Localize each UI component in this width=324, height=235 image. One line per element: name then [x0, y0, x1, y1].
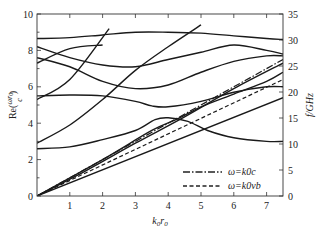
right-tick-label: 5	[288, 165, 293, 176]
y-tick-label: 4	[28, 118, 33, 129]
y-tick-label: 6	[28, 81, 33, 92]
x-tick-label: 7	[264, 200, 269, 211]
right-tick-label: 35	[288, 9, 298, 20]
legend-light-line-label: ω=k0c	[228, 166, 256, 177]
series-curve-8	[37, 55, 283, 88]
x-tick-label: 2	[100, 200, 105, 211]
y-tick-label: 10	[23, 9, 33, 20]
x-tick-label: 5	[199, 200, 204, 211]
x-tick-label: 4	[166, 200, 171, 211]
right-tick-label: 0	[288, 191, 293, 202]
x-tick-label: 6	[231, 200, 236, 211]
right-tick-label: 30	[288, 35, 298, 46]
right-tick-label: 25	[288, 61, 298, 72]
y-tick-label: 2	[28, 154, 33, 165]
dispersion-chart: 1234567 0246810 05101520253035 k0r0 Re(ω…	[0, 0, 324, 235]
y-axis-label: Re(ωr0c)	[5, 91, 24, 119]
y-axis-ticks: 0246810	[23, 9, 41, 202]
legend: ω=k0c ω=k0vb	[183, 166, 261, 191]
x-tick-label: 3	[133, 200, 138, 211]
y-tick-label: 0	[28, 191, 33, 202]
legend-beam-line-label: ω=k0vb	[228, 180, 261, 191]
series-curve-12	[37, 25, 201, 143]
svg-text:Re(ωr0c): Re(ωr0c)	[5, 91, 24, 119]
x-axis-label: k0r0	[152, 215, 168, 228]
right-tick-label: 10	[288, 139, 298, 150]
svg-text:f/GHz: f/GHz	[304, 93, 315, 117]
y-tick-label: 8	[28, 45, 33, 56]
x-tick-label: 1	[67, 200, 72, 211]
series-curve-10	[37, 32, 283, 40]
right-axis-label: f/GHz	[304, 93, 315, 117]
series-curve-2	[37, 80, 283, 196]
right-tick-label: 15	[288, 113, 298, 124]
right-tick-label: 20	[288, 87, 298, 98]
right-axis-ticks: 05101520253035	[279, 9, 298, 202]
